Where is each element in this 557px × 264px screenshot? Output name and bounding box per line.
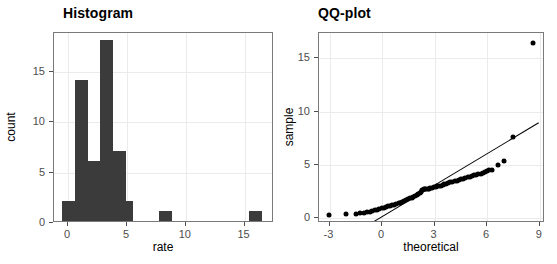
x-axis-tick	[539, 222, 540, 226]
scatter-point	[495, 162, 500, 167]
histogram-bar	[113, 151, 126, 221]
x-axis-tick	[434, 222, 435, 226]
x-axis-tick-label: 0	[378, 228, 384, 240]
gridline-vertical	[186, 33, 187, 221]
gridline-vertical	[330, 33, 331, 221]
x-axis-tick-label: 0	[64, 228, 70, 240]
y-axis-tick-label: 15	[19, 65, 45, 77]
gridline-vertical	[68, 33, 69, 221]
gridline-vertical	[127, 33, 128, 221]
qqplot-y-axis-title-box: sample	[278, 32, 300, 222]
y-axis-tick	[49, 172, 53, 173]
histogram-plot-area	[53, 32, 273, 222]
scatter-point	[510, 135, 515, 140]
histogram-bar	[62, 201, 75, 221]
scatter-point	[530, 40, 535, 45]
figure-canvas: Histogram 051015 051015 rate count QQ-pl…	[0, 0, 557, 264]
scatter-point	[326, 212, 331, 217]
qqplot-x-axis-title: theoretical	[403, 240, 458, 254]
gridline-horizontal	[54, 72, 272, 73]
histogram-bar	[75, 80, 88, 221]
x-axis-tick-label: 15	[237, 228, 249, 240]
scatter-point	[490, 167, 495, 172]
gridline-horizontal	[319, 218, 543, 219]
y-axis-tick	[49, 121, 53, 122]
y-axis-tick	[49, 71, 53, 72]
x-axis-tick-label: 5	[123, 228, 129, 240]
histogram-bar	[159, 211, 172, 221]
x-axis-tick	[67, 222, 68, 226]
histogram-title: Histogram	[63, 5, 133, 21]
y-axis-tick-label: 5	[19, 166, 45, 178]
y-axis-tick	[314, 217, 318, 218]
x-axis-tick	[185, 222, 186, 226]
y-axis-tick-label: 10	[19, 115, 45, 127]
histogram-x-axis-title: rate	[153, 240, 174, 254]
y-axis-tick-label: 0	[19, 216, 45, 228]
x-axis-tick-label: 6	[483, 228, 489, 240]
qqplot-title: QQ-plot	[318, 5, 371, 21]
x-axis-tick	[486, 222, 487, 226]
y-axis-tick	[314, 111, 318, 112]
x-axis-tick-label: 10	[179, 228, 191, 240]
qqplot-plot-area	[318, 32, 544, 222]
gridline-vertical	[487, 33, 488, 221]
gridline-vertical	[540, 33, 541, 221]
qqplot-y-axis-title: sample	[282, 108, 296, 147]
x-axis-tick	[244, 222, 245, 226]
histogram-bar	[249, 211, 262, 221]
histogram-panel-group: Histogram 051015 051015 rate count	[0, 0, 280, 264]
y-axis-tick	[314, 57, 318, 58]
gridline-horizontal	[319, 112, 543, 113]
histogram-bar	[88, 161, 101, 221]
x-axis-tick-label: -3	[324, 228, 334, 240]
qqplot-panel-group: QQ-plot 051015 -30369 theoretical sample	[280, 0, 557, 264]
x-axis-tick	[126, 222, 127, 226]
histogram-y-axis-title-box: count	[0, 32, 22, 222]
y-axis-tick	[49, 222, 53, 223]
x-axis-tick-label: 3	[431, 228, 437, 240]
histogram-y-axis-title: count	[4, 112, 18, 141]
gridline-vertical	[435, 33, 436, 221]
gridline-vertical	[245, 33, 246, 221]
gridline-vertical	[382, 33, 383, 221]
x-axis-tick	[381, 222, 382, 226]
histogram-bar	[126, 201, 132, 221]
x-axis-tick	[329, 222, 330, 226]
x-axis-tick-label: 9	[536, 228, 542, 240]
scatter-point	[501, 159, 506, 164]
scatter-point	[344, 212, 349, 217]
histogram-bar	[100, 40, 113, 221]
gridline-horizontal	[319, 165, 543, 166]
gridline-horizontal	[319, 58, 543, 59]
y-axis-tick	[314, 164, 318, 165]
